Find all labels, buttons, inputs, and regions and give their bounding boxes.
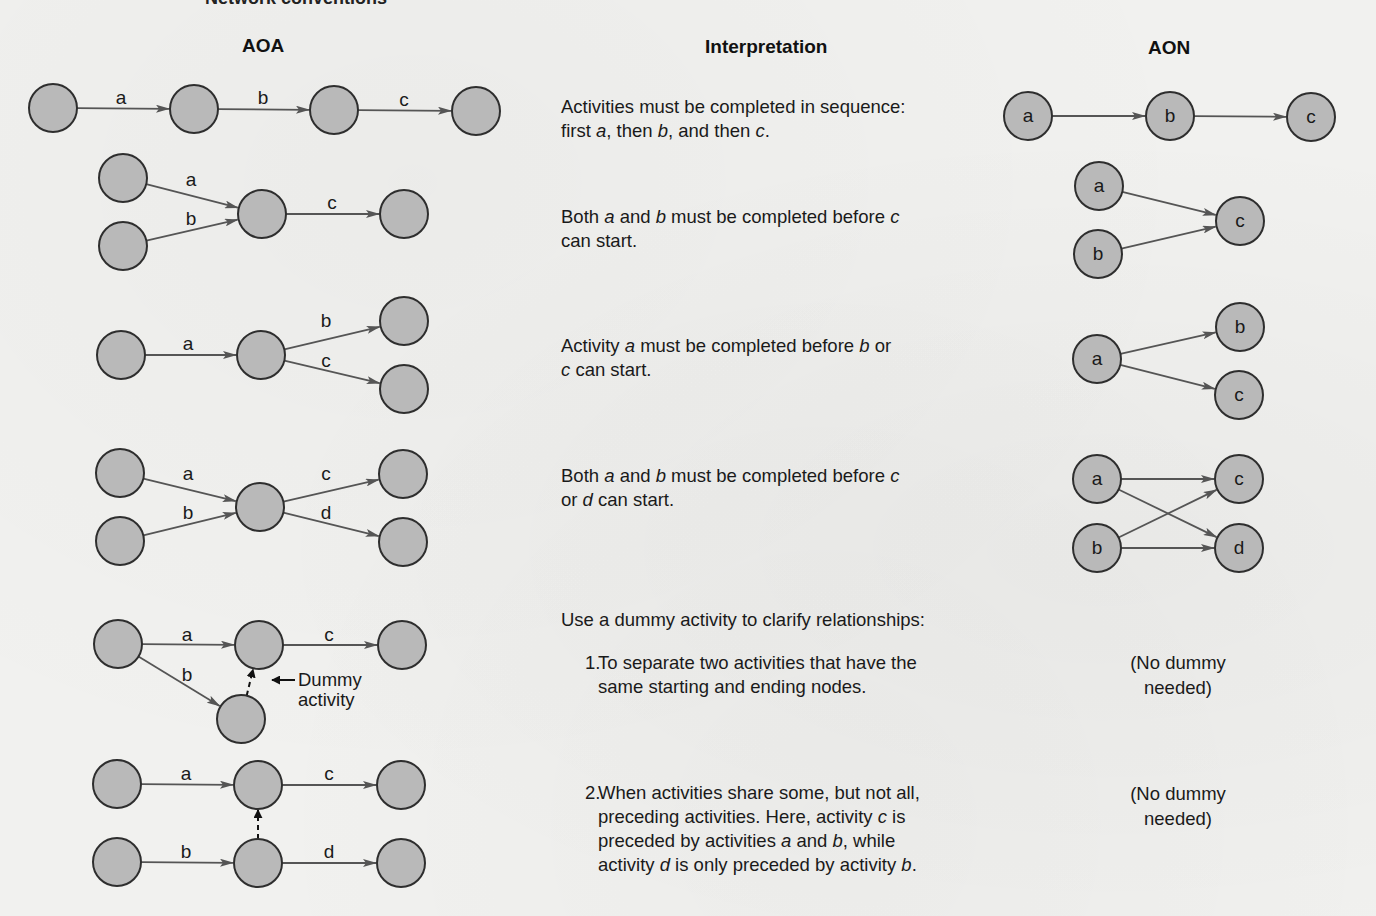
aoa-node <box>93 760 141 808</box>
dummy-activity-callout: Dummy activity <box>298 670 362 710</box>
interpretation-row-2: Both a and b must be completed before cc… <box>561 205 899 253</box>
svg-text:a: a <box>1092 348 1103 369</box>
aoa-edge-label-a: a <box>183 333 194 354</box>
activity-d: d <box>583 489 593 510</box>
aoa-edge-label-a: a <box>181 763 192 784</box>
aoa-edge-label-b: b <box>181 841 192 862</box>
aon-node-b: b <box>1146 92 1194 140</box>
aoa-edge-label-a: a <box>116 87 127 108</box>
aoa-edge-label-c: c <box>321 350 331 371</box>
aon-node-b: b <box>1216 303 1264 351</box>
svg-text:a: a <box>1094 175 1105 196</box>
aoa-node <box>29 84 77 132</box>
aon-node-a: a <box>1004 92 1052 140</box>
aoa-edge-label-b: b <box>182 664 193 685</box>
svg-text:c: c <box>1235 210 1245 231</box>
aoa-edge-label-b: b <box>321 310 332 331</box>
aon-no-dummy-note-2: (No dummy needed) <box>1128 781 1228 831</box>
aon-edge-dummy <box>1194 116 1286 117</box>
aoa-node <box>379 450 427 498</box>
aoa-edge-c <box>283 480 378 502</box>
aoa-edge-label-b: b <box>186 208 197 229</box>
interpretation-row-1: Activities must be completed in sequence… <box>561 95 905 143</box>
dummy-section-heading: Use a dummy activity to clarify relation… <box>561 608 925 632</box>
aoa-edge-label-d: d <box>324 841 335 862</box>
aoa-node <box>377 761 425 809</box>
aoa-edge-a <box>141 784 233 785</box>
activity-a: a <box>625 335 635 356</box>
aoa-edge-label-c: c <box>324 624 334 645</box>
aoa-node <box>380 297 428 345</box>
aoa-node <box>235 621 283 669</box>
aon-edge-dummy <box>1121 227 1215 249</box>
aoa-edge-label-d: d <box>321 502 332 523</box>
aoa-node <box>310 86 358 134</box>
interp-1-line1: Activities must be completed in sequence… <box>561 96 905 117</box>
aoa-edge-label-b: b <box>258 87 269 108</box>
activity-b: b <box>656 206 666 227</box>
aoa-node <box>452 87 500 135</box>
aoa-node <box>170 85 218 133</box>
aoa-node <box>93 838 141 886</box>
aoa-edge-b <box>138 656 219 705</box>
svg-text:a: a <box>1092 468 1103 489</box>
activity-b: b <box>658 120 668 141</box>
aoa-edge-label-b: b <box>183 502 194 523</box>
aon-node-a: a <box>1073 455 1121 503</box>
aon-edge-dummy <box>1120 365 1215 389</box>
aon-node-c: c <box>1215 371 1263 419</box>
aoa-node <box>237 331 285 379</box>
svg-text:b: b <box>1092 537 1103 558</box>
aoa-edge-label-a: a <box>183 463 194 484</box>
aon-node-b: b <box>1073 524 1121 572</box>
dummy-rule-2: 2. When activities share some, but not a… <box>586 781 920 877</box>
svg-text:c: c <box>1306 106 1316 127</box>
activity-c: c <box>561 359 570 380</box>
aoa-edge-label-c: c <box>324 763 334 784</box>
aoa-edge-label-c: c <box>321 463 331 484</box>
aoa-node <box>217 695 265 743</box>
aon-nodes: abcabcbacacbd <box>1004 92 1335 572</box>
aoa-node <box>378 621 426 669</box>
svg-text:c: c <box>1234 384 1244 405</box>
activity-a: a <box>604 465 614 486</box>
activity-c: c <box>890 465 899 486</box>
dummy-rule-1-number: 1. <box>585 651 600 675</box>
aon-node-a: a <box>1075 162 1123 210</box>
aoa-node <box>99 222 147 270</box>
activity-a: a <box>596 120 606 141</box>
aoa-edge-label-a: a <box>182 624 193 645</box>
aoa-edge-c <box>358 110 451 111</box>
svg-text:a: a <box>1023 105 1034 126</box>
aoa-edge-b <box>284 327 379 350</box>
activity-a: a <box>604 206 614 227</box>
aoa-node <box>380 190 428 238</box>
aon-node-d: d <box>1215 524 1263 572</box>
aoa-node <box>236 483 284 531</box>
aoa-node <box>97 331 145 379</box>
interpretation-row-3: Activity a must be completed before b or… <box>561 334 891 382</box>
aon-node-c: c <box>1215 455 1263 503</box>
aon-node-a: a <box>1073 335 1121 383</box>
aoa-node <box>94 620 142 668</box>
activity-c: c <box>890 206 899 227</box>
svg-text:c: c <box>1234 468 1244 489</box>
aoa-node <box>379 518 427 566</box>
aon-node-b: b <box>1074 230 1122 278</box>
activity-b: b <box>859 335 869 356</box>
aoa-node <box>96 449 144 497</box>
aon-no-dummy-note-1: (No dummy needed) <box>1128 650 1228 700</box>
interpretation-row-4: Both a and b must be completed before co… <box>561 464 899 512</box>
aon-edge-dummy <box>1122 192 1215 215</box>
dummy-rule-2-number: 2. <box>585 781 600 805</box>
svg-text:d: d <box>1234 537 1245 558</box>
aoa-node <box>234 839 282 887</box>
aoa-edge-dummy <box>247 669 253 695</box>
aoa-nodes <box>29 84 500 887</box>
svg-text:b: b <box>1093 243 1104 264</box>
aoa-node <box>99 154 147 202</box>
dummy-rule-1: 1. To separate two activities that have … <box>586 651 917 699</box>
aoa-node <box>380 365 428 413</box>
aoa-edge-label-a: a <box>186 169 197 190</box>
aoa-edge-c <box>284 361 379 384</box>
